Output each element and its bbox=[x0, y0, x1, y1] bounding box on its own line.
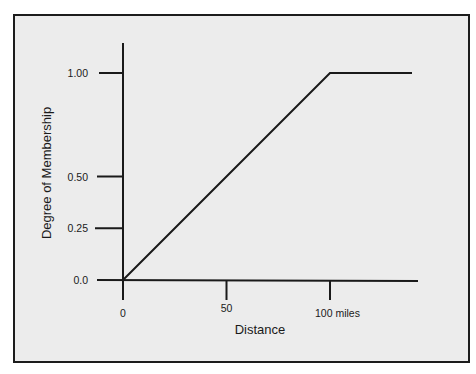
y-tick-label: 0.50 bbox=[68, 171, 89, 183]
x-tick-label: 100 miles bbox=[315, 307, 360, 319]
x-ticks: 050100 miles bbox=[120, 281, 360, 319]
membership-line bbox=[123, 73, 412, 280]
y-axis-label: Degree of Membership bbox=[39, 107, 54, 239]
axes bbox=[97, 43, 418, 300]
y-tick-label: 1.00 bbox=[68, 67, 89, 79]
y-ticks: 0.00.250.501.00 bbox=[68, 67, 123, 286]
x-axis bbox=[97, 280, 418, 281]
x-tick-label: 50 bbox=[221, 302, 233, 314]
x-axis-label: Distance bbox=[235, 322, 286, 337]
y-tick-label: 0.25 bbox=[68, 222, 89, 234]
y-tick-label: 0.0 bbox=[73, 274, 88, 286]
membership-chart: 0.00.250.501.00 050100 miles Distance De… bbox=[0, 0, 476, 374]
x-tick-label: 0 bbox=[120, 307, 126, 319]
